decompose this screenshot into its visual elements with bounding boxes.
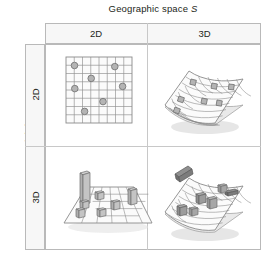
extruded-object [189,207,198,216]
surface-point-marker [211,83,217,89]
surface-point-marker [190,79,197,86]
figure-root: Geographic space S Geo-spatial data A 2D… [0,0,262,263]
extruded-object [97,208,106,217]
map-point-marker [88,75,95,82]
surface-point-marker [228,84,234,90]
cell-illustration-3d-2d [56,165,156,241]
column-header-2d: 2D [45,25,147,42]
map-point-marker [81,108,88,115]
extruded-object [128,188,137,205]
extruded-object [196,192,206,204]
extruded-object [95,191,104,200]
map-point-marker [72,85,79,92]
map-point-marker [112,63,119,70]
ground-plane [64,187,152,223]
cell-illustration-2d-3d [155,57,251,139]
extruded-object [207,196,217,209]
extruded-object [111,200,120,210]
cell-illustration-2d-2d [62,53,136,127]
surface-point-marker [216,100,222,106]
column-axis-title: Geographic space S [45,3,261,14]
column-axis-title-symbol: S [191,3,198,14]
surface-point-marker [201,98,208,104]
column-header-3d: 3D [148,25,261,42]
row-header-2d: 2D [30,43,41,147]
extruded-object [76,208,85,218]
row-header-3d: 3D [30,146,41,250]
map-point-marker [71,62,78,69]
extruded-object [218,184,227,193]
map-point-marker [100,98,107,105]
column-axis-title-text: Geographic space [109,3,191,14]
cell-illustration-3d-3d [155,160,251,246]
map-point-marker [119,83,126,90]
matrix-horizontal-divider [45,146,261,147]
extruded-object [177,204,187,216]
